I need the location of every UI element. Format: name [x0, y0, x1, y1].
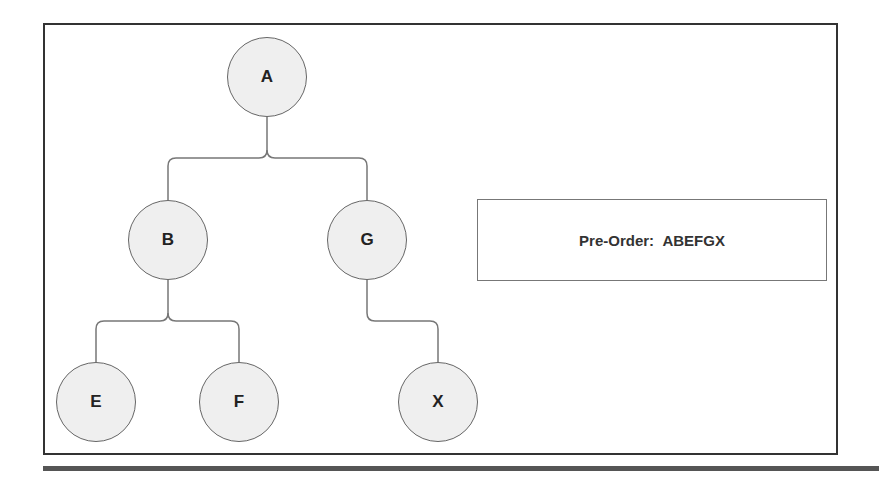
preorder-result-box: Pre-Order: ABEFGX: [477, 199, 827, 281]
edge-b-e: [96, 280, 168, 362]
node-label: B: [162, 230, 174, 250]
edge-b-f: [168, 313, 239, 362]
node-label: G: [360, 230, 373, 250]
tree-node-f: F: [199, 362, 279, 442]
tree-node-e: E: [56, 362, 136, 442]
tree-node-b: B: [128, 200, 208, 280]
node-label: X: [432, 392, 443, 412]
tree-node-x: X: [398, 362, 478, 442]
preorder-value: ABEFGX: [662, 232, 725, 249]
preorder-label: Pre-Order:: [579, 232, 654, 249]
edge-g-x: [367, 280, 438, 362]
node-label: F: [234, 392, 244, 412]
edge-a-b: [168, 117, 267, 200]
node-label: A: [261, 67, 273, 87]
tree-node-g: G: [327, 200, 407, 280]
node-label: E: [90, 392, 101, 412]
bottom-divider: [43, 466, 879, 471]
edge-a-g: [267, 150, 367, 200]
tree-node-a: A: [227, 37, 307, 117]
